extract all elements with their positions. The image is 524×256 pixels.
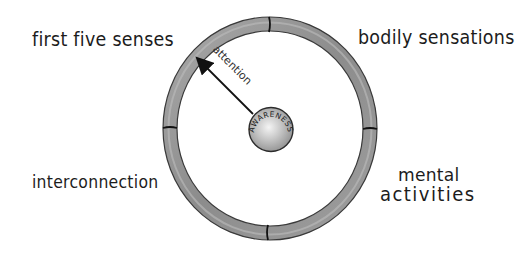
- attention-label: attention: [210, 43, 255, 88]
- awareness-core: AWARENESS: [247, 108, 295, 152]
- label-mental: mental: [398, 164, 460, 185]
- label-interconnection: interconnection: [32, 172, 158, 192]
- divider-left: [163, 127, 177, 128]
- divider-bottom: [267, 225, 268, 240]
- label-activities: activities: [380, 183, 476, 205]
- label-bodily-sensations: bodily sensations: [358, 26, 515, 48]
- divider-right: [363, 128, 377, 129]
- awareness-diagram: attention AWARENESS first five senses bo…: [0, 0, 524, 256]
- label-first-five-senses: first five senses: [32, 28, 174, 50]
- divider-top: [269, 17, 270, 32]
